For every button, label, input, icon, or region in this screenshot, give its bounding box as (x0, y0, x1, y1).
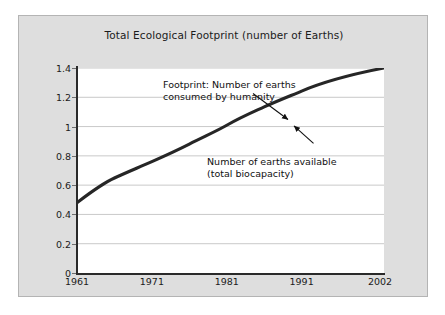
footprint-annotation-line2: consumed by humanity (163, 91, 296, 103)
x-tick-label: 1991 (290, 277, 314, 287)
biocapacity-annotation-arrow (294, 126, 314, 144)
x-axis-tick-labels: 1961 1971 1981 1991 2002 (77, 277, 384, 293)
y-axis-tick-labels: 1.4 1.2 1 0.8 0.6 0.4 0.2 0 (33, 68, 71, 273)
x-axis-line (76, 273, 385, 275)
x-tick-label: 1961 (65, 277, 89, 287)
page-title: Total Ecological Footprint (number of Ea… (19, 29, 429, 41)
x-tick-label: 1981 (215, 277, 239, 287)
biocapacity-annotation-label: Number of earths available (total biocap… (207, 156, 337, 180)
chart-figure: Total Ecological Footprint (number of Ea… (0, 0, 445, 315)
y-tick-label: 0.2 (56, 240, 71, 250)
footprint-annotation-label: Footprint: Number of earths consumed by … (163, 79, 296, 103)
biocapacity-annotation-line2: (total biocapacity) (207, 168, 337, 180)
y-axis-line (76, 66, 78, 275)
y-tick-label: 1.2 (56, 93, 71, 103)
y-tick-label: 0.4 (56, 210, 71, 220)
y-tick-label: 1 (65, 123, 71, 133)
y-tick-label: 0.8 (56, 152, 71, 162)
footprint-annotation-line1: Footprint: Number of earths (163, 79, 296, 91)
biocapacity-annotation-line1: Number of earths available (207, 156, 337, 168)
x-tick-label: 2002 (368, 277, 392, 287)
x-tick-label: 1971 (140, 277, 164, 287)
plot-area: Footprint: Number of earths consumed by … (77, 68, 384, 273)
y-tick-label: 1.4 (56, 64, 71, 74)
y-tick-label: 0.6 (56, 181, 71, 191)
chart-panel: Total Ecological Footprint (number of Ea… (18, 15, 428, 297)
